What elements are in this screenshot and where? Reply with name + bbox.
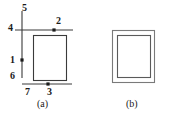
caption-panel-b: (b) bbox=[126, 99, 138, 109]
node-dot-2 bbox=[52, 28, 55, 31]
square-outline bbox=[34, 36, 67, 81]
label-2: 2 bbox=[56, 16, 61, 26]
node-dot-1 bbox=[20, 58, 23, 61]
technical-figure: 5 4 2 1 6 7 3 (a) (b) bbox=[0, 0, 176, 117]
panel-a-drawing bbox=[15, 11, 73, 86]
caption-panel-a: (a) bbox=[37, 99, 48, 109]
panel-b-drawing bbox=[113, 31, 155, 83]
figure-drawing bbox=[0, 0, 176, 117]
label-1: 1 bbox=[10, 55, 15, 65]
label-4: 4 bbox=[8, 23, 13, 33]
label-7: 7 bbox=[25, 87, 30, 97]
label-3: 3 bbox=[47, 87, 52, 97]
label-6: 6 bbox=[10, 71, 15, 81]
outer-rectangle bbox=[113, 31, 155, 83]
inner-rectangle bbox=[118, 36, 151, 78]
label-5: 5 bbox=[22, 3, 27, 13]
